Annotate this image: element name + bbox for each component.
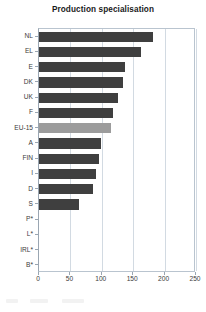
artifact-blob	[6, 299, 18, 303]
y-axis-label-l: L*	[27, 226, 33, 241]
bar-nl[interactable]	[39, 32, 153, 42]
gridline	[196, 29, 197, 271]
y-axis-label-dk: DK	[24, 74, 33, 89]
bar-eu-15[interactable]	[39, 123, 111, 133]
y-axis-label-s: S	[29, 196, 33, 211]
y-axis-label-b: B*	[26, 257, 33, 272]
y-axis-label-el: EL	[25, 43, 33, 58]
y-axis-label-e: E	[29, 59, 33, 74]
bar-i[interactable]	[39, 169, 96, 179]
bar-row	[39, 197, 194, 212]
bar-row	[39, 166, 194, 181]
plot-area	[38, 28, 195, 272]
bar-row	[39, 75, 194, 90]
x-axis-label-200: 200	[158, 275, 169, 282]
artifact-blob	[62, 299, 84, 303]
bar-dk[interactable]	[39, 77, 123, 87]
bar-row	[39, 151, 194, 166]
artifact-blob	[30, 299, 48, 303]
bar-el[interactable]	[39, 47, 141, 57]
bar-f[interactable]	[39, 108, 113, 118]
chart-title: Production specialisation	[0, 5, 206, 14]
bar-row	[39, 121, 194, 136]
bar-uk[interactable]	[39, 93, 118, 103]
y-axis-label-d: D	[28, 181, 33, 196]
x-axis-label-150: 150	[127, 275, 138, 282]
bar-row	[39, 90, 194, 105]
bar-d[interactable]	[39, 184, 93, 194]
bar-row	[39, 105, 194, 120]
bar-row	[39, 243, 194, 258]
y-axis-label-f: F	[29, 104, 33, 119]
x-axis-label-250: 250	[189, 275, 200, 282]
y-axis-label-nl: NL	[25, 28, 33, 43]
y-axis-labels: NLELEDKUKFEU-15AFINIDSP*L*IRL*B*	[0, 28, 36, 272]
y-axis-label-uk: UK	[24, 89, 33, 104]
y-axis-label-i: I	[31, 165, 33, 180]
bar-row	[39, 29, 194, 44]
bar-row	[39, 258, 194, 273]
y-axis-label-a: A	[29, 135, 33, 150]
bar-row	[39, 182, 194, 197]
x-axis-label-0: 0	[36, 275, 40, 282]
x-axis-label-100: 100	[95, 275, 106, 282]
y-axis-label-eu-15: EU-15	[14, 120, 33, 135]
bar-row	[39, 136, 194, 151]
bar-row	[39, 60, 194, 75]
y-axis-label-fin: FIN	[22, 150, 33, 165]
y-axis-label-p: P*	[26, 211, 33, 226]
bar-row	[39, 227, 194, 242]
bars-container	[39, 29, 194, 271]
bar-row	[39, 212, 194, 227]
footer-artifacts	[0, 296, 206, 312]
y-axis-label-irl: IRL*	[20, 242, 33, 257]
chart-figure: Production specialisation NLELEDKUKFEU-1…	[0, 0, 206, 312]
bar-s[interactable]	[39, 199, 79, 209]
x-axis-labels: 050100150200250	[0, 275, 206, 287]
bar-a[interactable]	[39, 138, 101, 148]
bar-row	[39, 44, 194, 59]
bar-fin[interactable]	[39, 154, 99, 164]
bar-e[interactable]	[39, 62, 125, 72]
x-axis-label-50: 50	[66, 275, 73, 282]
